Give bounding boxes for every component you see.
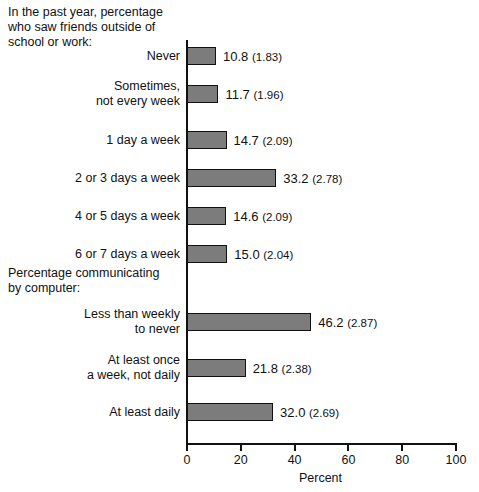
x-axis-tick-label: 100 [446, 453, 467, 467]
x-axis-tick-label: 80 [395, 453, 409, 467]
bar [187, 403, 273, 421]
bar [187, 47, 216, 65]
category-label: Less than weekly to never [10, 307, 186, 337]
category-label: At least once a week, not daily [10, 353, 186, 383]
x-axis-tick [294, 443, 296, 451]
bar-value-label: 33.2 (2.78) [283, 171, 342, 187]
bar [187, 207, 226, 225]
bar-value-label: 10.8 (1.83) [223, 49, 282, 65]
x-axis-tick [240, 443, 242, 451]
bar-value-label: 14.7 (2.09) [234, 133, 293, 149]
x-axis-line [186, 443, 456, 445]
category-label: Never [10, 49, 186, 64]
bar [187, 245, 227, 263]
category-label: 2 or 3 days a week [10, 171, 186, 186]
bar [187, 313, 311, 331]
bar [187, 131, 227, 149]
category-label: 4 or 5 days a week [10, 209, 186, 224]
x-axis-tick-label: 40 [288, 453, 302, 467]
x-axis-tick [347, 443, 349, 451]
category-label-column: NeverSometimes, not every week1 day a we… [0, 0, 186, 492]
category-label: At least daily [10, 405, 186, 420]
bar [187, 359, 246, 377]
x-axis-tick-label: 60 [341, 453, 355, 467]
x-axis-tick-label: 20 [234, 453, 248, 467]
bar-value-label: 46.2 (2.87) [318, 315, 377, 331]
bar-value-label: 11.7 (1.96) [225, 87, 283, 103]
x-axis-tick [186, 443, 188, 451]
x-axis-title: Percent [186, 471, 455, 486]
bar-value-label: 21.8 (2.38) [253, 361, 312, 377]
bar-value-label: 32.0 (2.69) [280, 405, 339, 421]
bar-chart-figure: In the past year, percentage who saw fri… [0, 0, 479, 492]
bar-value-label: 15.0 (2.04) [234, 247, 293, 263]
bar-value-label: 14.6 (2.09) [233, 209, 292, 225]
x-axis-tick [455, 443, 457, 451]
x-axis-tick [401, 443, 403, 451]
x-axis-tick-label: 0 [184, 453, 191, 467]
category-label: Sometimes, not every week [10, 79, 186, 109]
category-label: 1 day a week [10, 133, 186, 148]
bar [187, 169, 276, 187]
bar [187, 85, 218, 103]
category-label: 6 or 7 days a week [10, 247, 186, 262]
